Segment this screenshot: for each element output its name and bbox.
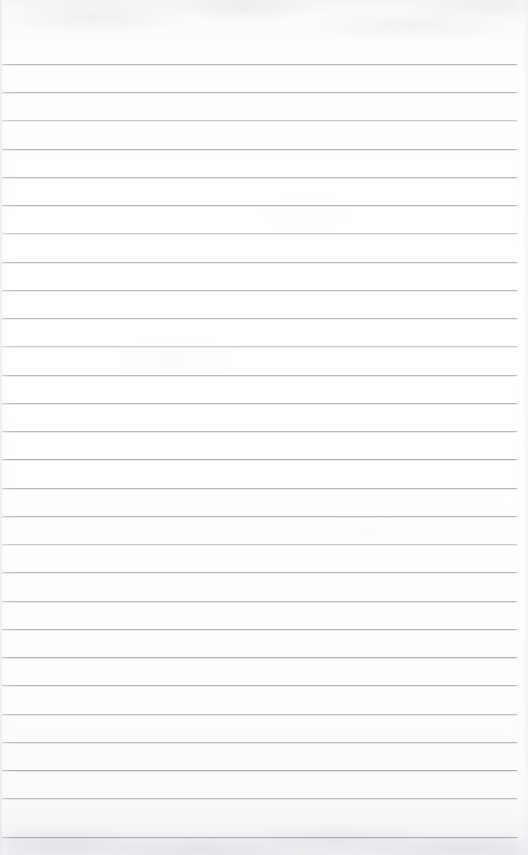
page-writing-area[interactable] (2, 64, 517, 837)
notebook-page (0, 0, 528, 855)
ruled-line (2, 837, 517, 838)
